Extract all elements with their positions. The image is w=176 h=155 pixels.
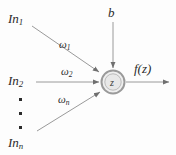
input-n-label: Inn: [8, 136, 23, 149]
input-2-label: In2: [8, 74, 23, 87]
ellipsis-dot: [19, 126, 22, 129]
output-label: f(z): [134, 62, 151, 75]
neuron-node-label: z: [110, 77, 114, 88]
neuron-diagram: z In1 In2 Inn ω1 ω2 ωn b f(z): [0, 0, 176, 155]
ellipsis-dot: [19, 112, 22, 115]
weight-1-label: ω1: [59, 39, 71, 50]
ellipsis-dot: [19, 98, 22, 101]
weight-2-label: ω2: [61, 66, 73, 77]
bias-label: b: [108, 6, 115, 19]
diagram-canvas: [0, 0, 176, 155]
input-1-label: In1: [8, 12, 23, 25]
weight-n-label: ωn: [58, 94, 70, 105]
